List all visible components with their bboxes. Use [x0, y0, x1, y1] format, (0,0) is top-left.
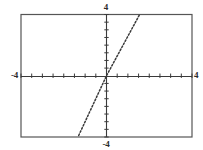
- graph-figure: 4 -4 4 -4: [0, 0, 203, 150]
- y-axis-min-label: -4: [97, 140, 115, 149]
- x-axis-max-label: 4: [194, 71, 203, 80]
- plot-canvas: [0, 0, 203, 150]
- x-axis-min-label: -4: [1, 71, 18, 80]
- y-axis-max-label: 4: [97, 3, 115, 12]
